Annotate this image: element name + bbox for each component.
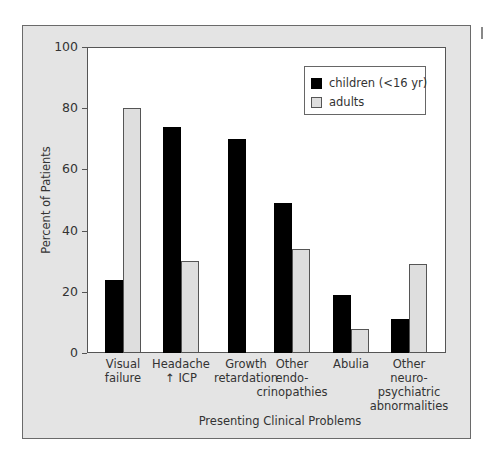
bar-adults [409,264,427,353]
bar-children [274,203,292,353]
x-axis-title: Presenting Clinical Problems [199,414,362,428]
x-category-label: Abulia [333,357,369,371]
legend-swatch-children [311,78,322,89]
y-tick [82,292,87,293]
edge-mark [481,27,483,39]
y-tick [82,47,87,48]
bar-children [105,280,123,353]
bar-children [163,127,181,353]
x-category-label: Other endo- crinopathies [257,357,328,399]
legend-label-adults: adults [329,95,364,109]
y-tick [82,108,87,109]
y-tick-label: 100 [38,40,78,54]
legend: children (<16 yr) adults [304,66,426,115]
bar-adults [181,261,199,353]
y-axis-title: Percent of Patients [39,146,53,254]
y-tick-label: 0 [38,346,78,360]
y-tick [82,231,87,232]
x-category-label: Headache ↑ ICP [152,357,210,385]
bar-children [391,319,409,353]
x-category-label: Other neuro- psychiatric abnormalities [370,357,449,413]
y-tick-label: 20 [38,285,78,299]
y-tick [82,353,87,354]
bar-adults [292,249,310,353]
x-category-label: Visual failure [105,357,141,385]
y-tick [82,169,87,170]
legend-swatch-adults [311,97,322,108]
legend-label-children: children (<16 yr) [329,76,427,90]
bar-children [333,295,351,353]
legend-item-children: children (<16 yr) [311,76,427,90]
bar-children [228,139,246,353]
bar-adults [123,108,141,353]
legend-item-adults: adults [311,95,364,109]
y-tick-label: 80 [38,101,78,115]
bar-adults [351,329,369,353]
